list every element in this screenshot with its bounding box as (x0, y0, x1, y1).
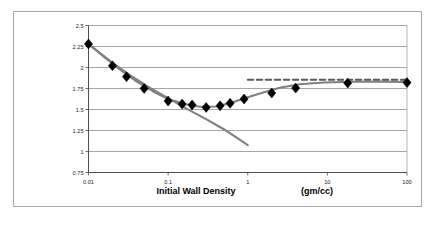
chart-plot-svg: 0.7511.251.51.7522.252.50.010.1110100Ini… (0, 0, 435, 233)
x-tick-label-4: 100 (402, 179, 411, 185)
y-tick-label-3: 1.5 (76, 107, 84, 113)
chart-figure: 0.7511.251.51.7522.252.50.010.1110100Ini… (0, 0, 435, 233)
y-tick-label-1: 1 (80, 149, 83, 155)
y-tick-label-4: 1.75 (73, 86, 84, 92)
y-tick-label-2: 1.25 (73, 128, 84, 134)
y-tick-label-5: 2 (80, 65, 83, 71)
y-tick-label-6: 2.25 (73, 44, 84, 50)
x-tick-label-3: 10 (324, 179, 330, 185)
x-tick-label-1: 0.1 (164, 179, 172, 185)
y-tick-label-0: 0.75 (73, 170, 84, 176)
x-tick-label-0: 0.01 (83, 179, 94, 185)
x-axis-title: Initial Wall Density (156, 186, 235, 196)
y-tick-label-7: 2.5 (76, 23, 84, 29)
x-tick-label-2: 1 (246, 179, 249, 185)
x-axis-units: (gm/cc) (301, 186, 333, 196)
